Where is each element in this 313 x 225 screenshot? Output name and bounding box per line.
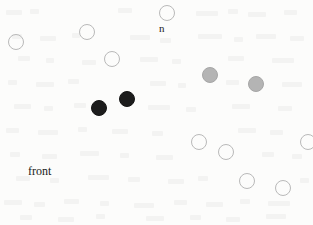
marker-open <box>239 173 255 189</box>
figure-canvas: n front <box>0 0 313 225</box>
marker-open <box>159 5 175 21</box>
marker-black <box>91 100 107 116</box>
marker-open <box>79 24 95 40</box>
paper-bleedthrough-texture <box>0 0 313 225</box>
axis-label-n: n <box>159 23 165 34</box>
marker-open <box>8 34 24 50</box>
marker-open <box>191 134 207 150</box>
marker-open <box>104 51 120 67</box>
marker-black <box>119 91 135 107</box>
axis-label-front: front <box>28 165 51 177</box>
marker-open <box>300 134 313 150</box>
marker-open <box>275 180 291 196</box>
marker-gray <box>202 67 218 83</box>
marker-open <box>218 144 234 160</box>
marker-gray <box>248 76 264 92</box>
